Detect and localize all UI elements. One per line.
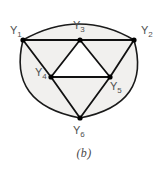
node-label-sub-y2: 2 xyxy=(148,30,153,39)
node-label-sub-y1: 1 xyxy=(17,30,22,39)
node-label-sub-y6: 6 xyxy=(80,130,85,139)
node-label-sub-y3: 3 xyxy=(80,25,85,34)
graph-node-y6 xyxy=(77,115,82,120)
node-label-sub-y4: 4 xyxy=(42,72,47,81)
node-label-sub-y5: 5 xyxy=(117,86,122,95)
node-label-y1: Y1 xyxy=(10,24,22,39)
node-label-y6: Y6 xyxy=(73,124,85,139)
graph-node-y5 xyxy=(107,74,112,79)
figure-caption: (b) xyxy=(0,146,168,161)
graph-node-y2 xyxy=(131,37,136,42)
figure-container: Y1Y2Y3Y4Y5Y6 (b) xyxy=(0,0,168,171)
node-label-y2: Y2 xyxy=(141,24,153,39)
graph-node-y3 xyxy=(77,37,82,42)
graph-node-y4 xyxy=(48,74,53,79)
